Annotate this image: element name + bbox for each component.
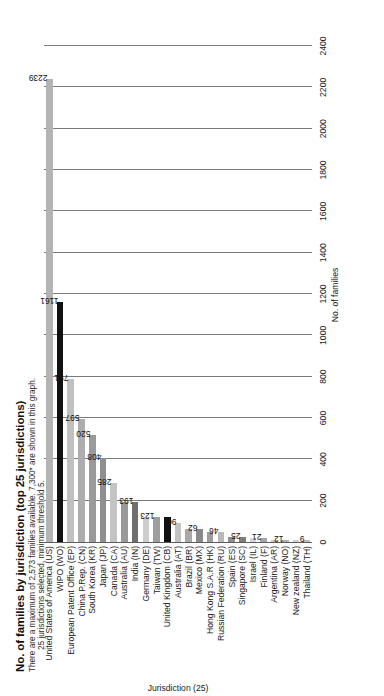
bar-row[interactable]: 25Singapore (SC)	[239, 537, 246, 542]
x-axis-tick: 1000	[318, 326, 328, 345]
bar-value-label: 193	[119, 497, 135, 505]
bar[interactable]	[89, 435, 96, 542]
bar-row[interactable]: 9Thailand (TH)	[303, 540, 310, 542]
category-label: India (IN)	[131, 542, 140, 581]
x-axis-tick: 400	[318, 452, 328, 466]
category-label: South Korea (KR)	[88, 542, 97, 614]
category-label: New zealand (NZ)	[292, 542, 301, 615]
category-label: Norway (NO)	[281, 542, 290, 596]
category-label: Argentina (AR)	[270, 542, 279, 603]
category-label: European Patent Office (EP)	[66, 542, 75, 655]
bar[interactable]	[100, 458, 107, 542]
gridline	[44, 252, 312, 253]
x-axis-tick: 1600	[318, 202, 328, 221]
x-axis-tick: 600	[318, 411, 328, 425]
bar-value-label: 62	[188, 524, 199, 532]
bar-value-label: 90	[167, 518, 178, 526]
bar-value-label: 123	[141, 511, 157, 519]
bar-row[interactable]: 46Russian Federation (RU)	[218, 533, 225, 543]
bar-chart-figure: No. of families by jurisdiction (top 25 …	[0, 0, 384, 696]
bar-value-label: 1161	[40, 297, 60, 305]
bar-row[interactable]: 2239United States of America (US)	[46, 79, 53, 542]
x-axis-label: No. of families	[330, 47, 340, 543]
bar-value-label: 791	[55, 373, 71, 381]
y-axis-label: Jurisdiction (25)	[44, 680, 312, 696]
gridline	[44, 169, 312, 170]
bar[interactable]	[67, 379, 74, 542]
category-label: United Kingdom (CB)	[163, 542, 172, 627]
x-axis-tick: 800	[318, 370, 328, 384]
bar[interactable]	[121, 502, 128, 542]
category-label: Israel (IL)	[249, 542, 258, 582]
bar[interactable]	[132, 502, 139, 542]
x-axis-tick: 1200	[318, 284, 328, 303]
bar-row[interactable]: 193India (IN)	[132, 502, 139, 542]
gridline	[44, 45, 312, 46]
bar-row[interactable]: 62Mexico (MX)	[196, 529, 203, 542]
bar-row[interactable]: 21Finland (F)	[260, 538, 267, 542]
bar-row[interactable]: 408Japan (JP)	[100, 458, 107, 542]
bar[interactable]	[110, 483, 117, 542]
title-block: No. of families by jurisdiction (top 25 …	[14, 112, 46, 672]
bar-value-label: 2239	[29, 74, 50, 82]
bar-row[interactable]: 12Norway (NO)	[282, 540, 289, 542]
bar[interactable]	[46, 79, 53, 542]
bar-row[interactable]: 520South Korea (KR)	[89, 435, 96, 542]
category-label: China P.Rep. (CN)	[77, 542, 86, 617]
category-label: Canada (CA)	[109, 542, 118, 596]
category-label: Hong Kong S.A.R (HK)	[206, 542, 215, 634]
x-axis-tick: 1800	[318, 160, 328, 179]
bar-value-label: 46	[210, 527, 221, 535]
category-label: Australia (AU)	[120, 542, 129, 599]
bar-row[interactable]: 123Taiwan (TW)	[153, 517, 160, 542]
bar[interactable]	[57, 302, 64, 542]
x-axis-tick: 2400	[318, 36, 328, 55]
category-label: Germany (DE)	[142, 542, 151, 601]
bar-value-label: 21	[252, 532, 263, 540]
bar-row[interactable]: Australia (AU)	[121, 502, 128, 542]
bar-row[interactable]: 285Canada (CA)	[110, 483, 117, 542]
bar-row[interactable]: New zealand (NZ)	[293, 540, 300, 542]
category-label: Thailand (TH)	[302, 542, 311, 599]
x-axis-tick: 0	[318, 540, 328, 545]
y-axis-label-text: Jurisdiction (25)	[148, 683, 209, 693]
bar-value-label: 25	[231, 532, 242, 540]
gridline	[44, 210, 312, 211]
bar-row[interactable]: 791European Patent Office (EP)	[67, 379, 74, 542]
gridline	[44, 376, 312, 377]
category-label: Singapore (SC)	[238, 542, 247, 605]
bar-value-label: 520	[76, 429, 92, 437]
category-label: Russian Federation (RU)	[217, 542, 226, 641]
bar-row[interactable]: 90Australia (AT)	[175, 523, 182, 542]
x-axis-tick: 200	[318, 494, 328, 508]
gridline	[44, 128, 312, 129]
chart-subtitle-line-1: There are a maximum of 2,573 families av…	[28, 112, 37, 672]
category-label: Mexico (MX)	[195, 542, 204, 594]
chart-title: No. of families by jurisdiction (top 25 …	[14, 112, 26, 672]
x-axis-tick: 2200	[318, 78, 328, 97]
category-label: Australia (AT)	[174, 542, 183, 598]
category-label: United States of America (US)	[45, 542, 54, 661]
x-axis-tick: 2000	[318, 119, 328, 138]
gridline	[44, 86, 312, 87]
category-label: Spain (ES)	[227, 542, 236, 588]
category-label: Finland (F)	[259, 542, 268, 588]
gridline	[44, 334, 312, 335]
bar-value-label: 597	[66, 413, 82, 421]
bar-value-label: 285	[98, 478, 114, 486]
category-label: WIPO (WO)	[56, 542, 65, 592]
category-label: Brazil (BR)	[184, 542, 193, 588]
category-label: Japan (JP)	[99, 542, 108, 588]
plot-area: 0200400600800100012001400160018002000220…	[44, 46, 312, 543]
x-axis-tick: 1400	[318, 243, 328, 262]
bar-row[interactable]: 1161WIPO (WO)	[57, 302, 64, 542]
bar-value-label: 408	[87, 452, 103, 460]
gridline	[44, 293, 312, 294]
category-label: Taiwan (TW)	[152, 542, 161, 594]
rotated-figure-wrapper: No. of families by jurisdiction (top 25 …	[0, 0, 384, 696]
